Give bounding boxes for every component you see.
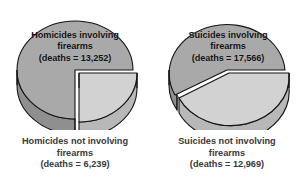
pie-svg-suicides <box>152 8 301 130</box>
pie-caption-homicides-line1: Homicides not involving <box>4 136 146 148</box>
pie-caption-suicides-line2: firearms <box>156 148 298 160</box>
pie-svg-homicides <box>0 8 150 130</box>
pie-chart-figure: Homicides involving firearms (deaths = 1… <box>0 0 301 194</box>
pie-caption-homicides-line3: (deaths = 6,239) <box>4 159 146 171</box>
pie-chart-suicides: Suicides involving firearms (deaths = 17… <box>152 8 301 130</box>
pie-caption-homicides: Homicides not involving firearms (deaths… <box>4 136 146 171</box>
pie-caption-homicides-line2: firearms <box>4 148 146 160</box>
pie-caption-suicides-line3: (deaths = 12,969) <box>156 159 298 171</box>
pie-caption-suicides-line1: Suicides not involving <box>156 136 298 148</box>
pie-caption-suicides: Suicides not involving firearms (deaths … <box>156 136 298 171</box>
pie-chart-homicides: Homicides involving firearms (deaths = 1… <box>0 8 150 130</box>
panel-suicides: Suicides involving firearms (deaths = 17… <box>151 0 301 194</box>
panel-homicides: Homicides involving firearms (deaths = 1… <box>0 0 150 194</box>
